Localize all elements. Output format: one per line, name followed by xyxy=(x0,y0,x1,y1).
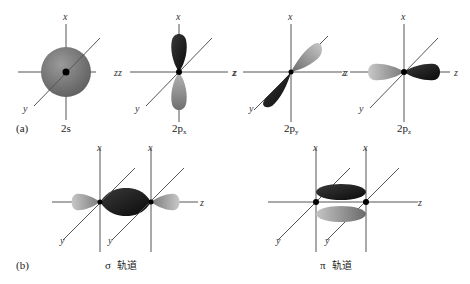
orbital-2px: x z z y 2px xyxy=(117,11,237,136)
orbital-diagram: x z y (a) 2s x z z y 2px x z z y 2py xyxy=(0,0,470,284)
x-label-1: x xyxy=(312,142,318,153)
x-label: x xyxy=(62,11,68,22)
panel-b-label: (b) xyxy=(16,259,29,272)
sigma-caption: 轨道 xyxy=(117,259,137,271)
pi-lobe-light-lower xyxy=(316,206,366,222)
bonding-lobe-dark xyxy=(100,188,151,216)
nucleus xyxy=(176,69,182,75)
y-axis-atom2 xyxy=(327,168,399,240)
caption-2s: 2s xyxy=(61,122,71,134)
nucleus xyxy=(63,69,70,76)
y-label: y xyxy=(248,103,254,114)
y-label: y xyxy=(134,103,140,114)
y-label: y xyxy=(358,103,364,114)
pi-symbol: π xyxy=(320,259,326,271)
x-label: x xyxy=(400,11,406,22)
y-label: y xyxy=(22,103,28,114)
nucleus-2 xyxy=(363,199,369,205)
panel-a-label: (a) xyxy=(16,122,29,135)
y-label-1: y xyxy=(275,235,281,246)
pi-orbital: x x z y y π 轨道 xyxy=(268,142,422,271)
y-label-2: y xyxy=(324,235,330,246)
nucleus xyxy=(401,69,407,75)
x-label: x xyxy=(287,11,293,22)
z-label: z xyxy=(417,197,422,208)
nucleus-1 xyxy=(313,199,319,205)
lobe-dark-front xyxy=(263,72,291,107)
orbital-2s: x z y (a) 2s xyxy=(16,11,118,135)
orbital-2pz: x z z y 2pz xyxy=(341,11,458,136)
z-label-right: z xyxy=(453,67,458,78)
lobe-dark-right xyxy=(404,64,440,80)
x-label-2: x xyxy=(362,142,368,153)
x-label-2: x xyxy=(147,142,153,153)
x-label-1: x xyxy=(96,142,102,153)
nucleus-2 xyxy=(149,200,154,205)
z-label: z xyxy=(199,197,204,208)
sigma-orbital: x x z y y (b) σ 轨道 xyxy=(16,142,204,272)
z-label-left: z xyxy=(117,67,122,78)
y-label-2: y xyxy=(107,235,113,246)
caption-2pz: 2pz xyxy=(397,122,411,136)
orbital-2py: x z z y 2py xyxy=(231,11,348,136)
z-label-left: z xyxy=(341,67,346,78)
nucleus xyxy=(289,70,294,75)
lobe-light-left xyxy=(368,64,404,80)
pi-lobe-dark-upper xyxy=(316,184,366,200)
y-label-1: y xyxy=(59,235,65,246)
sigma-symbol: σ xyxy=(105,259,111,271)
x-label: x xyxy=(175,11,181,22)
caption-2py: 2py xyxy=(284,122,299,136)
nucleus-1 xyxy=(98,200,103,205)
lobe-light-back xyxy=(291,43,322,72)
z-label-left: z xyxy=(231,67,236,78)
pi-caption: 轨道 xyxy=(332,259,352,271)
caption-2px: 2px xyxy=(172,122,187,136)
